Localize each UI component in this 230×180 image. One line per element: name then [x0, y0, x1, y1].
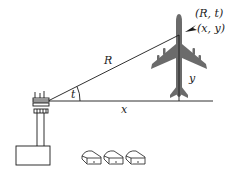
hangars-icon [82, 151, 145, 164]
rect-point-label: (x, y) [197, 22, 225, 35]
angle-label: t [71, 88, 76, 101]
radius-label: R [103, 54, 112, 67]
horizontal-label: x [121, 103, 128, 116]
radius-line [48, 35, 179, 101]
vertical-label: y [188, 72, 196, 85]
control-tower-icon [16, 91, 50, 165]
angle-arc [77, 87, 80, 102]
coordinate-diagram: (R, t) (x, y) R t x y [0, 0, 230, 180]
pointer-arrow-icon [185, 25, 197, 32]
polar-point-label: (R, t) [195, 7, 223, 20]
